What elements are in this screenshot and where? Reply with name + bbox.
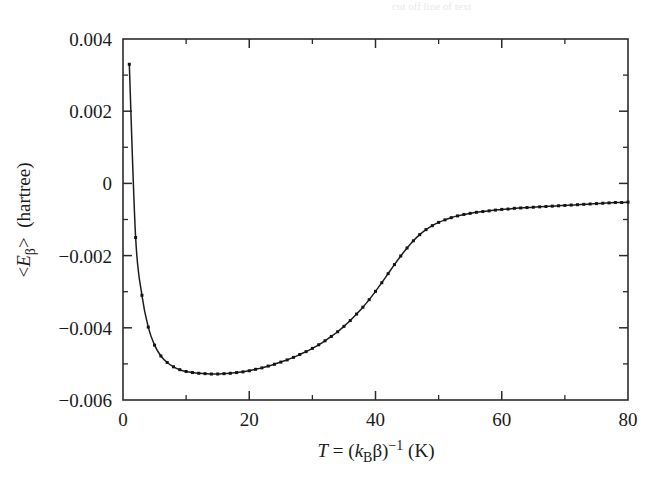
data-point-marker: [197, 372, 200, 375]
y-axis-tick-labels: 0.0040.0020−0.002−0.004−0.006: [59, 29, 113, 411]
data-point-marker: [128, 63, 131, 66]
y-title-unit: (hartree): [13, 162, 35, 227]
data-point-marker: [178, 368, 181, 371]
data-point-marker: [134, 236, 137, 239]
data-point-marker: [235, 371, 238, 374]
data-point-marker: [324, 339, 327, 342]
svg-text:T = (kBβ)−1 (K): T = (kBβ)−1 (K): [318, 438, 435, 465]
data-point-marker: [450, 216, 453, 219]
x-title-k-subscript: B: [363, 450, 372, 465]
chart-plot: 020406080 0.0040.0020−0.002−0.004−0.006 …: [0, 0, 660, 477]
data-point-marker: [267, 365, 270, 368]
y-tick-label: −0.006: [59, 390, 112, 411]
data-point-marker: [380, 281, 383, 284]
data-point-marker: [412, 239, 415, 242]
data-point-marker: [494, 209, 497, 212]
data-point-marker: [431, 224, 434, 227]
y-axis-ticks: [123, 75, 628, 364]
data-point-marker: [608, 201, 611, 204]
data-point-marker: [557, 204, 560, 207]
data-point-marker: [582, 203, 585, 206]
data-point-marker: [456, 214, 459, 217]
x-title-beta: β: [372, 440, 382, 461]
data-point-marker: [349, 319, 352, 322]
data-point-marker: [544, 205, 547, 208]
x-title-exponent: −1: [388, 438, 403, 453]
data-point-marker: [336, 330, 339, 333]
data-point-marker: [387, 272, 390, 275]
y-title-gap: [13, 228, 34, 238]
data-series-group: [128, 63, 630, 376]
y-tick-label: 0.002: [69, 101, 112, 122]
data-point-marker: [223, 372, 226, 375]
data-point-marker: [595, 202, 598, 205]
data-point-marker: [159, 354, 162, 357]
series-line: [129, 64, 628, 374]
data-point-marker: [393, 263, 396, 266]
y-tick-label: −0.004: [59, 318, 113, 339]
data-point-marker: [298, 353, 301, 356]
data-point-marker: [406, 247, 409, 250]
x-tick-label: 20: [240, 409, 259, 430]
data-point-marker: [355, 313, 358, 316]
data-point-marker: [620, 201, 623, 204]
data-point-marker: [538, 205, 541, 208]
data-point-marker: [153, 344, 156, 347]
data-point-marker: [374, 290, 377, 293]
data-point-marker: [172, 365, 175, 368]
data-point-marker: [317, 343, 320, 346]
data-point-marker: [185, 370, 188, 373]
data-point-marker: [469, 212, 472, 215]
data-point-marker: [526, 206, 529, 209]
data-point-marker: [462, 213, 465, 216]
data-point-marker: [481, 210, 484, 213]
data-point-marker: [361, 306, 364, 309]
data-point-marker: [399, 254, 402, 257]
data-point-marker: [204, 372, 207, 375]
data-point-marker: [576, 203, 579, 206]
x-tick-label: 40: [366, 409, 385, 430]
data-point-marker: [513, 207, 516, 210]
data-point-marker: [292, 356, 295, 359]
data-point-marker: [443, 218, 446, 221]
axes-frame: [123, 39, 628, 400]
x-axis-tick-labels: 020406080: [118, 409, 637, 430]
y-tick-label: 0.004: [69, 29, 112, 50]
x-title-equals: = (: [328, 440, 355, 462]
data-point-marker: [241, 370, 244, 373]
x-tick-label: 80: [619, 409, 638, 430]
data-point-marker: [500, 208, 503, 211]
data-point-marker: [563, 204, 566, 207]
x-title-unit: (K): [408, 440, 434, 462]
data-point-marker: [216, 373, 219, 376]
data-point-marker: [140, 294, 143, 297]
y-title-variable: E: [13, 255, 34, 268]
data-point-marker: [248, 369, 251, 372]
data-point-marker: [273, 363, 276, 366]
y-axis-title: <Eβ> (hartree): [13, 162, 38, 277]
scan-artifact-text: cut off line of text: [392, 0, 471, 12]
data-point-marker: [475, 211, 478, 214]
data-point-marker: [260, 366, 263, 369]
data-point-marker: [570, 204, 573, 207]
data-point-marker: [229, 372, 232, 375]
data-point-marker: [166, 361, 169, 364]
x-tick-label: 60: [492, 409, 511, 430]
y-title-open: <: [13, 267, 34, 278]
data-point-marker: [614, 201, 617, 204]
data-point-marker: [519, 206, 522, 209]
data-point-marker: [589, 202, 592, 205]
data-point-marker: [627, 201, 630, 204]
data-point-marker: [210, 373, 213, 376]
data-point-marker: [191, 371, 194, 374]
svg-text:<Eβ> (hartree): <Eβ> (hartree): [13, 162, 38, 277]
data-point-marker: [368, 298, 371, 301]
data-point-marker: [488, 209, 491, 212]
data-point-marker: [601, 202, 604, 205]
y-title-close: >: [13, 237, 34, 248]
data-point-marker: [254, 368, 257, 371]
data-point-marker: [286, 358, 289, 361]
x-axis-title: T = (kBβ)−1 (K): [318, 438, 435, 465]
data-point-marker: [418, 233, 421, 236]
data-point-marker: [425, 228, 428, 231]
